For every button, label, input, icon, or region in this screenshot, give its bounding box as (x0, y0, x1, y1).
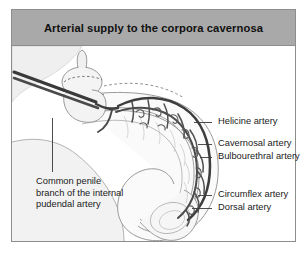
figure-panel: Arterial supply to the corpora cavernosa (11, 9, 296, 242)
label-helicine-artery: Helicine artery (218, 116, 277, 128)
figure-title-band: Arterial supply to the corpora cavernosa (12, 10, 295, 46)
figure-title: Arterial supply to the corpora cavernosa (44, 22, 263, 34)
label-cavernosal-artery: Cavernosal artery (218, 138, 291, 150)
label-bulbourethral-artery: Bulbourethral artery (218, 151, 302, 163)
label-circumflex-artery: Circumflex artery (218, 189, 288, 201)
label-dorsal-artery: Dorsal artery (218, 202, 271, 214)
label-common-penile-branch: Common penile branch of the internal pud… (36, 176, 128, 211)
